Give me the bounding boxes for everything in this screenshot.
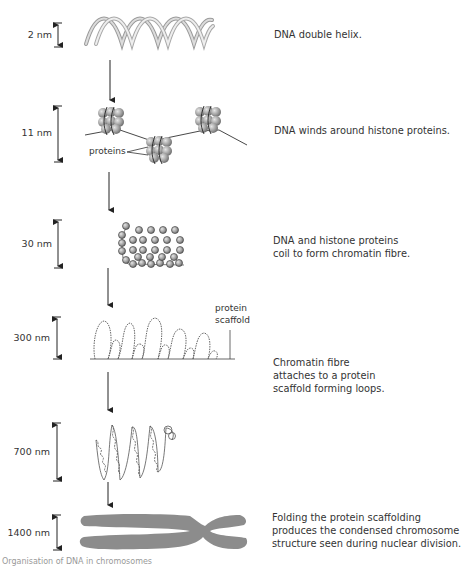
description-line: coil to form chromatin fibre. bbox=[273, 247, 410, 260]
scale-bar-11nm bbox=[54, 106, 62, 162]
figure-caption: Organisation of DNA in chromosomes bbox=[2, 557, 152, 566]
description-line: produces the condensed chromosome bbox=[272, 524, 461, 537]
scale-label-2nm: 2 nm bbox=[0, 29, 52, 40]
scale-bar-30nm bbox=[54, 220, 62, 268]
scale-label-30nm: 30 nm bbox=[0, 238, 52, 249]
description-line: attaches to a protein bbox=[273, 369, 385, 382]
dna-double-helix-graphic bbox=[86, 19, 213, 45]
description-dna-double-helix: DNA double helix. bbox=[274, 28, 362, 41]
chromatin-fibre-graphic bbox=[119, 223, 185, 268]
scaffold-loops-graphic bbox=[90, 318, 235, 359]
description-condensed-chromosome: Folding the protein scaffolding produces… bbox=[272, 511, 461, 550]
scale-label-1400nm: 1400 nm bbox=[0, 527, 50, 538]
proteins-label: proteins bbox=[89, 146, 126, 156]
protein-scaffold-label: protein scaffold bbox=[215, 302, 250, 326]
description-line: scaffold forming loops. bbox=[273, 382, 385, 395]
scale-bar-300nm bbox=[53, 317, 61, 359]
description-line: DNA winds around histone proteins. bbox=[274, 124, 450, 137]
description-nucleosomes: DNA winds around histone proteins. bbox=[274, 124, 450, 137]
scale-label-300nm: 300 nm bbox=[0, 332, 50, 343]
scale-label-11nm: 11 nm bbox=[0, 127, 52, 138]
description-line: Chromatin fibre bbox=[273, 356, 385, 369]
scale-bar-1400nm bbox=[53, 515, 61, 550]
description-line: DNA double helix. bbox=[274, 28, 362, 41]
description-line: structure seen during nuclear division. bbox=[272, 537, 461, 550]
scale-bar-700nm bbox=[53, 423, 61, 481]
protein-scaffold-label-line-1: protein bbox=[215, 302, 250, 314]
coiled-loops-graphic bbox=[96, 425, 176, 480]
description-line: DNA and histone proteins bbox=[273, 234, 410, 247]
description-chromatin-fibre: DNA and histone proteins coil to form ch… bbox=[273, 234, 410, 260]
condensed-chromosome-graphic bbox=[80, 514, 247, 549]
description-scaffold-loops: Chromatin fibre attaches to a protein sc… bbox=[273, 356, 385, 395]
description-line: Folding the protein scaffolding bbox=[272, 511, 461, 524]
scale-bar-2nm bbox=[54, 23, 62, 47]
scale-label-700nm: 700 nm bbox=[0, 446, 50, 457]
protein-scaffold-label-line-2: scaffold bbox=[215, 314, 250, 326]
